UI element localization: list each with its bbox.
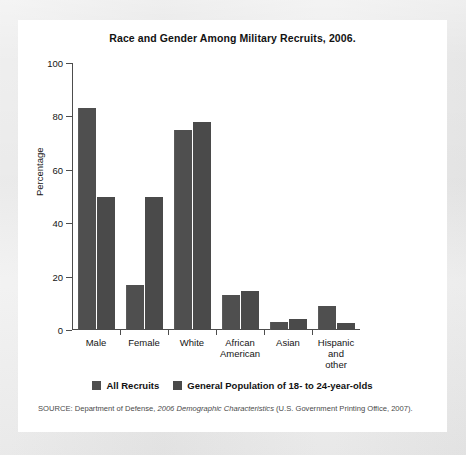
bar-group xyxy=(264,63,312,330)
bar xyxy=(318,306,336,330)
y-axis-tick xyxy=(66,330,72,331)
y-axis-tick-label: 0 xyxy=(58,325,63,336)
x-axis-category-label: Male xyxy=(86,337,107,348)
bar xyxy=(337,323,355,330)
bar xyxy=(241,291,259,330)
x-axis-category-label: White xyxy=(180,337,204,348)
x-axis-tick xyxy=(168,330,169,335)
chart-title: Race and Gender Among Military Recruits,… xyxy=(18,32,447,44)
y-axis-tick-label: 100 xyxy=(47,58,63,69)
source-note: SOURCE: Department of Defense, 2006 Demo… xyxy=(38,404,423,414)
bar xyxy=(174,130,192,330)
x-axis-tick xyxy=(264,330,265,335)
bar-group xyxy=(72,63,120,330)
figure-card: Race and Gender Among Military Recruits,… xyxy=(18,20,447,432)
y-axis-title: Percentage xyxy=(34,147,45,196)
chart-legend: All RecruitsGeneral Population of 18- to… xyxy=(18,380,447,391)
bar xyxy=(270,322,288,330)
bar xyxy=(289,319,307,330)
x-axis-category-label: African American xyxy=(220,337,260,359)
x-axis-tick xyxy=(312,330,313,335)
source-suffix: (U.S. Government Printing Office, 2007). xyxy=(274,404,413,413)
x-axis-category-label: Female xyxy=(128,337,160,348)
x-axis-category-label: Asian xyxy=(276,337,300,348)
legend-item[interactable]: All Recruits xyxy=(92,380,159,391)
legend-label: All Recruits xyxy=(106,380,159,391)
bar xyxy=(126,285,144,330)
legend-swatch xyxy=(173,381,182,390)
legend-swatch xyxy=(92,381,101,390)
x-axis-category-label: Hispanic and other xyxy=(318,337,354,370)
y-axis-tick-label: 20 xyxy=(52,271,63,282)
bar-group xyxy=(216,63,264,330)
bar xyxy=(145,197,163,331)
bar xyxy=(193,122,211,330)
bar xyxy=(97,197,115,331)
source-prefix: SOURCE: Department of Defense, xyxy=(38,404,157,413)
bar-chart-figure: Race and Gender Among Military Recruits,… xyxy=(18,20,447,432)
y-axis-tick-label: 40 xyxy=(52,218,63,229)
bar xyxy=(78,108,96,330)
legend-label: General Population of 18- to 24-year-old… xyxy=(187,380,372,391)
x-axis-tick xyxy=(120,330,121,335)
source-title-italic: 2006 Demographic Characteristics xyxy=(157,404,274,413)
bar-group xyxy=(168,63,216,330)
bar-group xyxy=(120,63,168,330)
x-axis-tick xyxy=(216,330,217,335)
bar-group xyxy=(312,63,360,330)
y-axis-tick-label: 80 xyxy=(52,111,63,122)
bar xyxy=(222,295,240,330)
legend-item[interactable]: General Population of 18- to 24-year-old… xyxy=(173,380,372,391)
plot-area: 020406080100 MaleFemaleWhiteAfrican Amer… xyxy=(72,63,360,330)
y-axis-tick-label: 60 xyxy=(52,164,63,175)
